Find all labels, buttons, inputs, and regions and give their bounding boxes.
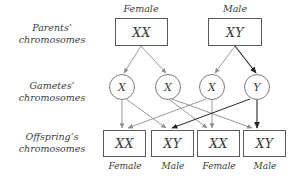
offspring-box-3: XX xyxy=(197,130,240,157)
gamete-circle-1: X xyxy=(109,74,135,100)
row-label-gametes-line2: chromosomes xyxy=(0,92,104,104)
row-label-gametes-line1: Gametes’ xyxy=(0,80,104,92)
offspring-box-2: XY xyxy=(151,130,194,157)
gamete-circle-2: X xyxy=(155,74,181,100)
arrow-female-parent-to-gamete-1 xyxy=(124,46,141,73)
genetics-inheritance-diagram: Parents’ chromosomes Gametes’ chromosome… xyxy=(0,0,293,182)
offspring-box-1: XX xyxy=(103,130,146,157)
arrow-gamete-1-to-offspring-2 xyxy=(126,99,166,128)
arrow-female-parent-to-gamete-2 xyxy=(141,46,166,73)
row-label-gametes: Gametes’ chromosomes xyxy=(0,80,104,104)
row-label-parents-line2: chromosomes xyxy=(0,34,104,46)
arrow-male-parent-to-gamete-4 xyxy=(235,46,256,73)
offspring-box-4: XY xyxy=(243,130,286,157)
arrow-male-parent-to-gamete-3 xyxy=(215,46,235,73)
parent-box-female: XX xyxy=(115,18,168,46)
gamete-circle-3: X xyxy=(199,74,225,100)
gamete-circle-4: Y xyxy=(244,74,270,100)
row-label-offspring: Offspring’s chromosomes xyxy=(0,131,104,155)
row-label-parents-line1: Parents’ xyxy=(0,22,104,34)
row-label-offspring-line2: chromosomes xyxy=(0,143,104,155)
parent-header-female: Female xyxy=(106,3,176,14)
offspring-sex-label-4: Male xyxy=(234,161,293,171)
arrow-gamete-2-to-offspring-3 xyxy=(170,100,207,128)
arrow-gamete-3-to-offspring-1 xyxy=(128,99,206,128)
parent-box-male: XY xyxy=(208,18,262,46)
row-label-parents: Parents’ chromosomes xyxy=(0,22,104,46)
row-label-offspring-line1: Offspring’s xyxy=(0,131,104,143)
parent-header-male: Male xyxy=(200,3,270,14)
